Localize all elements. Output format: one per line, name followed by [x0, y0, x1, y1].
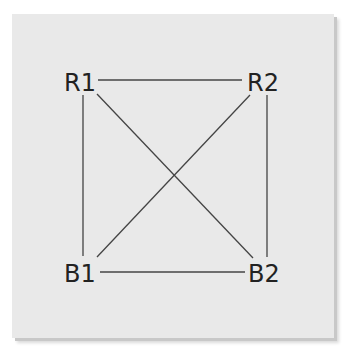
- edge-r2-b1: [97, 95, 250, 257]
- node-r2: R2: [247, 69, 279, 97]
- node-b2: B2: [248, 260, 280, 288]
- node-r1: R1: [64, 69, 96, 97]
- graph-canvas: R1 R2 B1 B2: [0, 0, 352, 356]
- edge-r1-b2: [97, 94, 253, 258]
- node-b1: B1: [64, 260, 96, 288]
